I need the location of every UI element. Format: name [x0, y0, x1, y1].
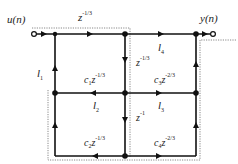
node — [193, 90, 199, 96]
node — [122, 153, 128, 159]
signal-flow-graph: u(n) y(n) z-1/3 l1 l2 l3 l4 z-1/3 z-1 c1… — [0, 0, 238, 164]
arrow-right-icon — [41, 31, 47, 37]
output-label: y(n) — [199, 12, 218, 25]
arrow-right-icon — [202, 31, 208, 37]
arrow-right-icon — [158, 31, 164, 37]
arrow-up-icon — [52, 65, 58, 71]
output-terminal — [211, 32, 216, 37]
arrow-left-icon — [90, 90, 96, 96]
arrow-up-icon — [193, 122, 199, 128]
node — [122, 90, 128, 96]
dotted-boundary — [32, 28, 236, 160]
c1-label: c1z-1/3 — [84, 72, 105, 86]
l3-label: l3 — [158, 99, 164, 113]
arrow-up-icon — [193, 61, 199, 67]
mid-lower-delay-label: z-1 — [135, 110, 145, 123]
top-delay-label: z-1/3 — [77, 10, 92, 23]
mid-upper-delay-label: z-1/3 — [135, 55, 150, 68]
node — [122, 31, 128, 37]
arrow-left-icon — [92, 153, 98, 159]
arrow-down-icon — [122, 57, 128, 63]
c3-label: c3z-2/3 — [154, 72, 175, 86]
node — [53, 32, 57, 36]
c2-label: c2z-1/3 — [84, 135, 105, 149]
arrow-right-icon — [87, 31, 93, 37]
l4-label: l4 — [158, 41, 164, 55]
c4-label: c4z-2/3 — [154, 135, 175, 149]
node — [52, 90, 58, 96]
l1-label: l1 — [37, 67, 43, 81]
input-label: u(n) — [7, 13, 26, 26]
arrow-right-icon — [156, 90, 162, 96]
input-terminal — [32, 32, 37, 37]
arrow-right-icon — [156, 153, 162, 159]
arrow-up-icon — [52, 122, 58, 128]
l2-label: l2 — [93, 99, 99, 113]
node — [193, 31, 199, 37]
arrow-down-icon — [122, 117, 128, 123]
